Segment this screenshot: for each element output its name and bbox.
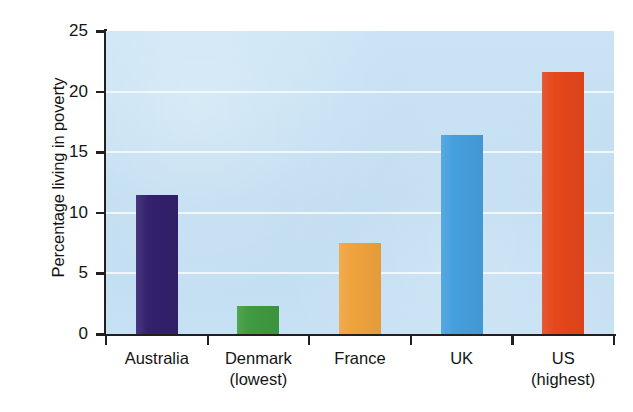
- y-tick-mark: [96, 30, 105, 33]
- x-tick-mark: [207, 334, 209, 345]
- x-category-name: UK: [450, 349, 473, 367]
- x-category-name: US: [552, 349, 575, 367]
- gridline: [106, 212, 614, 214]
- x-tick-mark: [308, 334, 310, 345]
- bar-australia: [136, 195, 178, 334]
- x-category-label-denmark: Denmark(lowest): [208, 348, 310, 390]
- y-tick-mark: [96, 212, 105, 215]
- y-tick-label: 15: [48, 143, 88, 160]
- y-tick-mark: [96, 333, 105, 336]
- x-tick-mark: [613, 334, 615, 345]
- x-tick-mark: [105, 334, 107, 345]
- x-category-label-france: France: [309, 348, 411, 369]
- bar-denmark: [237, 306, 279, 334]
- bar-us: [542, 72, 584, 334]
- bar-france: [339, 243, 381, 334]
- y-axis-title: Percentage living in poverty: [49, 28, 68, 328]
- y-tick-label: 5: [48, 264, 88, 281]
- x-category-label-us: US(highest): [512, 348, 614, 390]
- y-tick-label: 25: [48, 22, 88, 39]
- y-tick-label: 10: [48, 204, 88, 221]
- x-category-sublabel: (highest): [512, 369, 614, 390]
- y-tick-label: 0: [48, 325, 88, 342]
- plot-area: [106, 31, 614, 334]
- gridline: [106, 91, 614, 93]
- x-category-name: Denmark: [225, 349, 292, 367]
- y-tick-mark: [96, 151, 105, 154]
- x-category-name: France: [334, 349, 385, 367]
- y-tick-label: 20: [48, 83, 88, 100]
- x-category-label-australia: Australia: [106, 348, 208, 369]
- x-category-name: Australia: [125, 349, 189, 367]
- y-tick-mark: [96, 91, 105, 94]
- x-category-label-uk: UK: [411, 348, 513, 369]
- poverty-bar-chart: Percentage living in poverty 0510152025 …: [0, 0, 633, 412]
- x-tick-mark: [410, 334, 412, 345]
- x-category-sublabel: (lowest): [208, 369, 310, 390]
- y-tick-mark: [96, 272, 105, 275]
- x-tick-mark: [511, 334, 513, 345]
- gridline: [106, 151, 614, 153]
- bar-uk: [441, 135, 483, 334]
